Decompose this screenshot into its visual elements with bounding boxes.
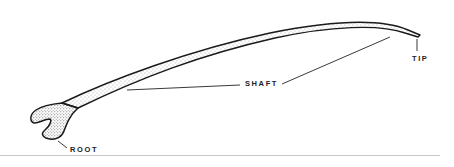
shaft-shape: [62, 22, 420, 108]
shaft-leader-right: [282, 37, 390, 84]
hair-structure-diagram: SHAFT TIP ROOT: [0, 0, 454, 167]
diagram-drawing: [0, 0, 454, 167]
root-leader: [58, 141, 67, 148]
label-tip: TIP: [412, 55, 428, 63]
label-shaft: SHAFT: [245, 80, 278, 88]
label-root: ROOT: [70, 146, 98, 154]
root-shape: [31, 103, 78, 139]
bottom-separator-line: [0, 155, 440, 156]
shaft-leader-left: [127, 85, 240, 90]
